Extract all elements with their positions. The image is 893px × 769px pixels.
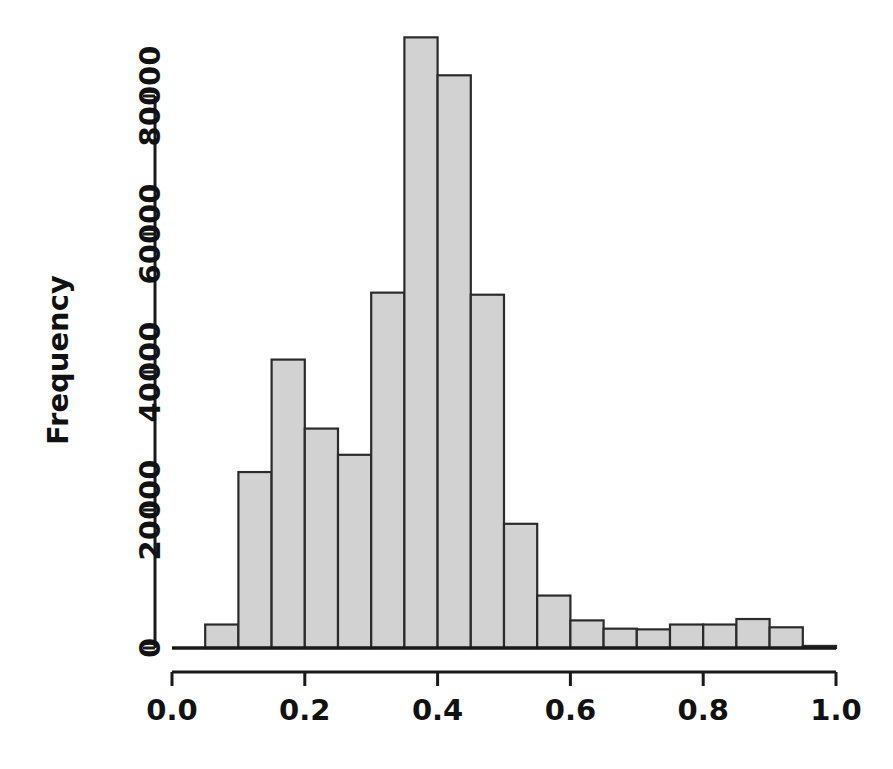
histogram-bar <box>338 455 371 648</box>
y-axis-title-group: Frequency <box>41 275 75 445</box>
histogram-bar <box>570 620 603 648</box>
x-axis-tick-label: 0.2 <box>279 693 330 727</box>
histogram-bar <box>770 627 803 648</box>
histogram-bar <box>471 295 504 648</box>
y-axis-tick-label: 60000 <box>133 184 167 285</box>
x-axis-tick-label: 0.8 <box>678 693 729 727</box>
histogram-bar <box>272 360 305 648</box>
histogram-figure: 020000400006000080000 0.00.20.40.60.81.0… <box>0 0 893 769</box>
y-axis-tick-label: 0 <box>133 638 167 658</box>
histogram-bar <box>238 472 271 648</box>
histogram-bar <box>637 629 670 648</box>
histogram-bar <box>205 625 238 648</box>
histogram-bar <box>504 524 537 648</box>
y-axis-tick-label: 80000 <box>133 46 167 147</box>
histogram-bar <box>604 629 637 648</box>
histogram-bar <box>670 625 703 648</box>
x-axis-tick-label: 1.0 <box>810 693 861 727</box>
y-axis-tick-label: 40000 <box>133 322 167 423</box>
histogram-bar <box>703 625 736 648</box>
x-axis-tick-label: 0.4 <box>412 693 463 727</box>
histogram-bar <box>404 37 437 648</box>
histogram-bar <box>537 596 570 648</box>
histogram-plot-area: 020000400006000080000 0.00.20.40.60.81.0… <box>0 0 893 769</box>
y-axis-tick-label: 20000 <box>133 460 167 561</box>
histogram-bar <box>736 619 769 648</box>
x-axis-tick-label: 0.0 <box>146 693 197 727</box>
histogram-bar <box>371 293 404 648</box>
y-axis-title: Frequency <box>41 275 75 445</box>
x-axis-tick-label: 0.6 <box>545 693 596 727</box>
histogram-bar <box>305 429 338 648</box>
histogram-bar <box>438 75 471 648</box>
